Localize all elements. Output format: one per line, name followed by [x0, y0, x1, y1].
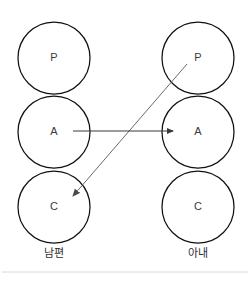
node-label-husband-c: C: [50, 200, 58, 212]
diagram-canvas: P A C P A C 남편 아내: [0, 0, 250, 281]
column-label-wife: 아내: [188, 247, 208, 260]
node-label-husband-p: P: [50, 51, 58, 63]
column-husband: P A C: [18, 22, 90, 243]
column-label-husband: 남편: [44, 247, 64, 260]
ego-state-diagram: P A C P A C 남편 아내: [0, 0, 250, 281]
column-wife: P A C: [162, 22, 234, 243]
node-label-wife-a: A: [194, 125, 202, 137]
node-label-husband-a: A: [50, 125, 58, 137]
node-label-wife-p: P: [194, 51, 202, 63]
node-label-wife-c: C: [194, 200, 202, 212]
